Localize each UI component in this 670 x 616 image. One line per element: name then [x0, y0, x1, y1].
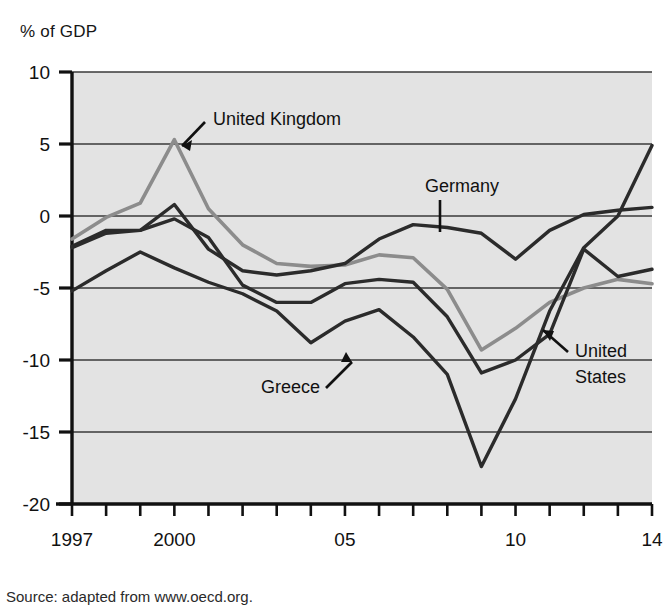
svg-text:United: United: [575, 341, 627, 361]
budget-deficit-chart-figure: % of GDP 1050-5-10-15-20 19972000051014 …: [0, 0, 670, 616]
svg-text:5: 5: [39, 134, 50, 155]
source-note: Source: adapted from www.oecd.org.: [6, 588, 253, 605]
svg-text:2000: 2000: [153, 529, 195, 550]
svg-text:0: 0: [39, 206, 50, 227]
svg-text:Greece: Greece: [261, 377, 320, 397]
svg-text:States: States: [575, 367, 626, 387]
svg-text:-15: -15: [23, 422, 50, 443]
svg-text:-20: -20: [23, 494, 50, 515]
svg-text:1997: 1997: [51, 529, 93, 550]
svg-text:Germany: Germany: [425, 176, 499, 196]
svg-text:-10: -10: [23, 350, 50, 371]
chart-plot-area: 1050-5-10-15-20 19972000051014 United Ki…: [0, 0, 670, 580]
svg-text:-5: -5: [33, 278, 50, 299]
svg-text:14: 14: [641, 529, 663, 550]
y-axis-tick-labels: 1050-5-10-15-20: [23, 62, 50, 515]
y-axis-title: % of GDP: [20, 22, 97, 42]
svg-text:10: 10: [505, 529, 526, 550]
svg-text:05: 05: [334, 529, 355, 550]
svg-text:10: 10: [29, 62, 50, 83]
svg-text:United Kingdom: United Kingdom: [213, 109, 341, 129]
x-axis-tick-labels: 19972000051014: [51, 529, 663, 550]
